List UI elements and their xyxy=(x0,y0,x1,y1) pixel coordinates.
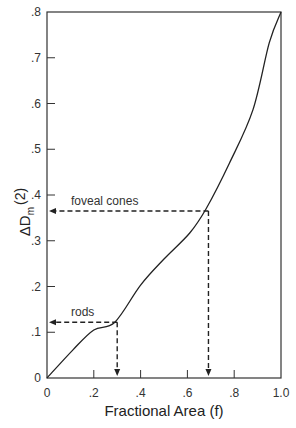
annotation-label: foveal cones xyxy=(71,194,138,208)
y-tick-labels: 0.1.2.3.4.5.6.7.8 xyxy=(31,5,41,385)
x-tick-label: .8 xyxy=(229,386,239,400)
y-tick-label: .7 xyxy=(31,51,41,65)
arrow-down-icon xyxy=(205,369,211,376)
chart: 0.1.2.3.4.5.6.7.8 0.2.4.6.81.0 rodsfovea… xyxy=(0,0,296,428)
axis-ticks xyxy=(47,58,234,378)
x-tick-labels: 0.2.4.6.81.0 xyxy=(44,386,290,400)
y-tick-label: .1 xyxy=(31,325,41,339)
y-axis-title-main: ΔD xyxy=(16,215,33,236)
y-axis-title-sub: m xyxy=(25,207,36,215)
x-tick-label: .4 xyxy=(136,386,146,400)
annotation-label: rods xyxy=(71,305,94,319)
x-tick-label: 0 xyxy=(44,386,51,400)
x-tick-label: 1.0 xyxy=(273,386,290,400)
y-tick-label: .6 xyxy=(31,97,41,111)
x-tick-label: .2 xyxy=(89,386,99,400)
annotation-rods: rods xyxy=(49,305,120,376)
x-axis-title: Fractional Area (f) xyxy=(104,402,223,419)
x-tick-label: .6 xyxy=(182,386,192,400)
y-tick-label: .4 xyxy=(31,188,41,202)
y-tick-label: 0 xyxy=(34,371,41,385)
y-tick-label: .5 xyxy=(31,142,41,156)
arrow-left-icon xyxy=(49,319,56,325)
y-axis-title-suffix: (2) xyxy=(12,188,28,205)
arrow-left-icon xyxy=(49,208,56,214)
arrow-down-icon xyxy=(114,369,120,376)
y-tick-label: .2 xyxy=(31,280,41,294)
y-tick-label: .8 xyxy=(31,5,41,19)
